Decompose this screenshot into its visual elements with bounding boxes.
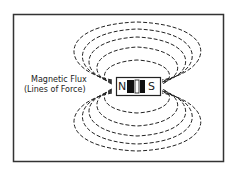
flux-label-line1: Magnetic Flux: [31, 75, 87, 85]
magnet-south-label: S: [148, 80, 155, 93]
flux-label-line2: (Lines of Force): [24, 85, 86, 95]
magnet-north-label: N: [118, 80, 126, 93]
